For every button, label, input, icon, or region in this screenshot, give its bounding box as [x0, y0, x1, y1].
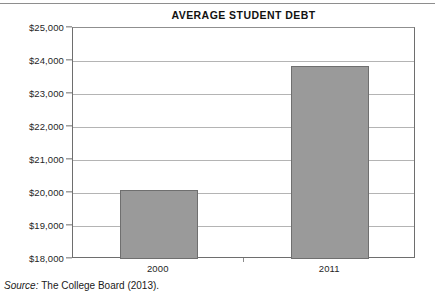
bar-2011 [291, 66, 369, 259]
x-axis-center-tick [243, 258, 244, 262]
source-label: Source: [4, 280, 38, 291]
y-axis-tick-label: $25,000 [29, 22, 64, 33]
y-axis-tick-mark [66, 191, 72, 192]
y-axis-tick-label: $20,000 [29, 187, 64, 198]
x-axis-tick-label: 2011 [319, 263, 340, 274]
y-axis-tick-label: $19,000 [29, 220, 64, 231]
y-axis-tick-mark [66, 224, 72, 225]
plot-area [72, 27, 415, 258]
gridline [73, 61, 414, 62]
y-axis-tick-label: $23,000 [29, 88, 64, 99]
y-axis-tick-mark [66, 92, 72, 93]
y-axis-tick-mark [66, 59, 72, 60]
chart-figure: AVERAGE STUDENT DEBT $25,000$24,000$23,0… [0, 0, 435, 299]
y-axis-tick-label: $22,000 [29, 121, 64, 132]
y-axis-tick-label: $24,000 [29, 55, 64, 66]
y-axis-tick-label: $18,000 [29, 253, 64, 264]
y-axis-tick-mark [66, 257, 72, 258]
y-axis-tick-mark [66, 26, 72, 27]
y-axis-tick-mark [66, 158, 72, 159]
y-axis-tick-label: $21,000 [29, 154, 64, 165]
source-note: Source: The College Board (2013). [4, 280, 159, 291]
source-text: The College Board (2013). [41, 280, 159, 291]
x-axis-tick-label: 2000 [147, 263, 169, 274]
chart-title: AVERAGE STUDENT DEBT [72, 9, 415, 21]
bar-2000 [120, 190, 198, 259]
y-axis-tick-mark [66, 125, 72, 126]
